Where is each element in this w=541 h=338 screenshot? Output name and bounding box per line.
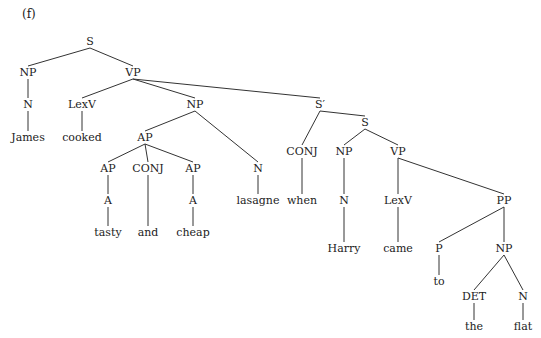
tree-edges xyxy=(28,48,523,320)
tree-edge xyxy=(474,255,504,290)
figure-label: (f) xyxy=(22,7,36,21)
tree-edge xyxy=(145,144,193,162)
tree-node: VP xyxy=(124,66,141,79)
tree-edge xyxy=(365,129,398,145)
tree-node: NP xyxy=(335,145,353,158)
tree-edge xyxy=(195,111,258,162)
tree-node: DET xyxy=(462,290,487,303)
tree-node: the xyxy=(465,320,483,333)
tree-node: James xyxy=(10,131,45,144)
tree-node: VP xyxy=(389,145,406,158)
tree-edge xyxy=(302,111,320,145)
tree-node: P xyxy=(435,242,443,255)
tree-nodes: SNPVPNJamesLexVcookedNPAPAPCONJAPAAtasty… xyxy=(10,35,533,333)
tree-node: S xyxy=(86,35,94,48)
tree-edge xyxy=(439,207,504,242)
tree-node: flat xyxy=(514,320,533,333)
tree-edge xyxy=(398,158,504,194)
tree-node: A xyxy=(103,194,113,207)
tree-node: LexV xyxy=(68,98,97,111)
tree-node: cooked xyxy=(62,131,102,144)
tree-node: NP xyxy=(495,242,513,255)
tree-node: N xyxy=(518,290,528,303)
tree-node: AP xyxy=(136,131,153,144)
tree-node: S′ xyxy=(315,98,326,111)
tree-node: S xyxy=(361,116,369,129)
tree-edge xyxy=(28,48,90,66)
tree-node: NP xyxy=(186,98,204,111)
tree-edge xyxy=(108,144,145,162)
tree-node: N xyxy=(23,98,33,111)
tree-edge xyxy=(344,129,365,145)
tree-node: Harry xyxy=(328,242,362,255)
tree-node: CONJ xyxy=(286,145,317,158)
tree-node: N xyxy=(339,194,349,207)
tree-node: tasty xyxy=(94,226,122,239)
tree-edge xyxy=(145,111,195,131)
tree-edge xyxy=(90,48,133,66)
tree-node: lasagne xyxy=(237,194,280,207)
tree-node: when xyxy=(287,194,317,207)
tree-edge xyxy=(82,79,133,98)
tree-edge xyxy=(133,79,320,98)
tree-node: cheap xyxy=(176,226,209,239)
tree-node: LexV xyxy=(384,194,413,207)
tree-node: AP xyxy=(99,162,116,175)
tree-node: NP xyxy=(19,66,37,79)
tree-node: PP xyxy=(497,194,512,207)
tree-node: and xyxy=(138,226,159,239)
tree-edge xyxy=(145,144,148,162)
syntax-tree: (f) SNPVPNJamesLexVcookedNPAPAPCONJAPAAt… xyxy=(0,0,541,338)
tree-edge xyxy=(504,255,523,290)
tree-node: CONJ xyxy=(132,162,163,175)
tree-node: AP xyxy=(184,162,201,175)
tree-node: N xyxy=(253,162,263,175)
tree-edge xyxy=(320,111,365,116)
tree-node: came xyxy=(383,242,413,255)
tree-node: A xyxy=(188,194,198,207)
tree-node: to xyxy=(433,275,444,288)
